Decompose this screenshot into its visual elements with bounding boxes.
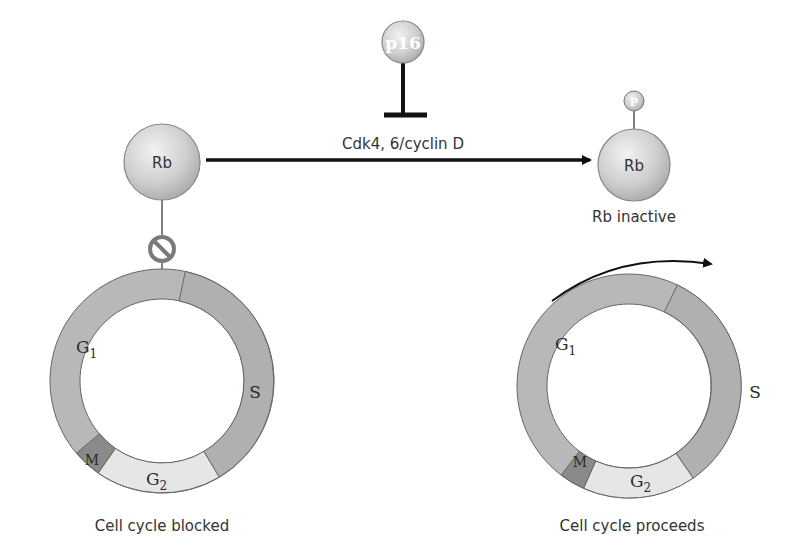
cell-cycle-blocked-caption: Cell cycle blocked	[95, 517, 229, 535]
phase-s	[179, 271, 274, 477]
rb-label: Rb	[152, 154, 172, 172]
m-label: M	[85, 452, 99, 468]
rb-inactive-caption: Rb inactive	[592, 208, 676, 226]
m-label: M	[573, 454, 587, 470]
p16-label: p16	[385, 33, 421, 53]
cell-cycle-blocked: G1 S G2 M Cell cycle blocked	[50, 269, 274, 535]
rb-cell-cycle-diagram: p16 Cdk4, 6/cyclin D Rb P Rb Rb inactive	[0, 0, 804, 557]
phosphate-label: P	[630, 96, 638, 109]
g1-label: G1	[555, 334, 576, 358]
rb-active: Rb	[124, 124, 200, 270]
s-label: S	[249, 382, 261, 402]
cell-cycle-proceeds-caption: Cell cycle proceeds	[560, 517, 705, 535]
block-icon	[150, 237, 174, 261]
p16-inhibitor: p16	[382, 21, 427, 115]
kinase-arrow: Cdk4, 6/cyclin D	[206, 135, 590, 160]
cell-cycle-proceeds: G1 S G2 M Cell cycle proceeds	[517, 261, 761, 535]
kinase-label: Cdk4, 6/cyclin D	[342, 135, 464, 153]
s-label: S	[749, 382, 761, 402]
phase-s	[664, 285, 741, 478]
rb-inactive: P Rb Rb inactive	[592, 91, 676, 226]
rb-inactive-label: Rb	[624, 157, 644, 175]
